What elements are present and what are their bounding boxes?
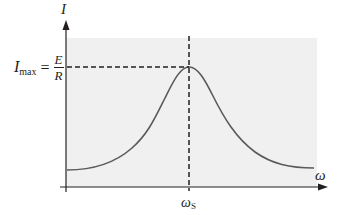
equals-sign: = (41, 60, 50, 76)
resonance-subscript: S (191, 201, 196, 211)
fraction-denominator: R (55, 68, 63, 82)
imax-subscript: max (19, 66, 36, 77)
x-axis-label: ω (315, 168, 326, 183)
resonance-curve-figure: I ω ωS Imax = E R (0, 0, 343, 215)
imax-symbol: Imax (14, 59, 37, 77)
fraction-numerator: E (54, 53, 64, 68)
resonance-frequency-label: ωS (181, 196, 196, 211)
y-axis-arrow-icon (63, 20, 70, 30)
e-over-r-fraction: E R (54, 53, 64, 82)
resonance-symbol: ω (181, 195, 191, 210)
imax-label: Imax = E R (14, 53, 64, 82)
x-axis-arrow-icon (318, 184, 328, 191)
plot-svg (0, 0, 343, 215)
y-axis-label: I (61, 2, 66, 17)
